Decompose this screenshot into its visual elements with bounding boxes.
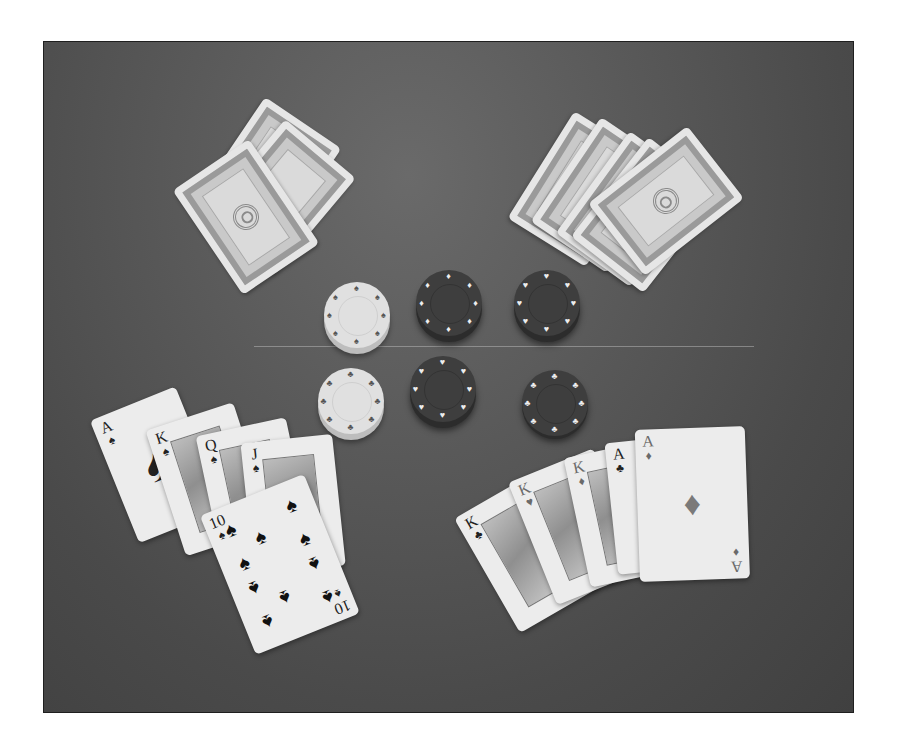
chip-stack-dark: ♥♥♥♥ ♥♥♥♥ (410, 356, 476, 422)
ten-spade-pips: ♠♠ ♠ ♠♠ ♠♠ ♠ ♠♠ (222, 494, 338, 636)
chip-stack-dark: ♣♣♣♣ ♣♣♣♣ (522, 370, 588, 436)
chip-stack-dark: ♦♦♦♦ ♦♦♦♦ (416, 270, 482, 336)
diamond-icon: ♦ (683, 485, 702, 524)
chip-stack-light: ♣♣♣♣ ♣♣♣♣ (318, 368, 384, 434)
poker-table-photo: ♠♠♠♠ ♠♠♠♠ ♦♦♦♦ ♦♦♦♦ ♥♥♥♥ ♥♥♥♥ ♣♣♣♣ ♣♣♣♣ … (43, 41, 854, 713)
chip-stack-light: ♠♠♠♠ ♠♠♠♠ (324, 282, 390, 348)
scan-line-artifact (254, 346, 754, 347)
diamond-icon: ♦ (641, 449, 655, 461)
club-icon: ♣ (613, 461, 628, 474)
playing-card: A♦ ♦ A♦ (635, 426, 750, 582)
spade-icon: ♠ (249, 461, 264, 474)
spade-icon: ♠ (103, 432, 120, 448)
chip-stack-dark: ♥♥♥♥ ♥♥♥♥ (514, 270, 580, 336)
